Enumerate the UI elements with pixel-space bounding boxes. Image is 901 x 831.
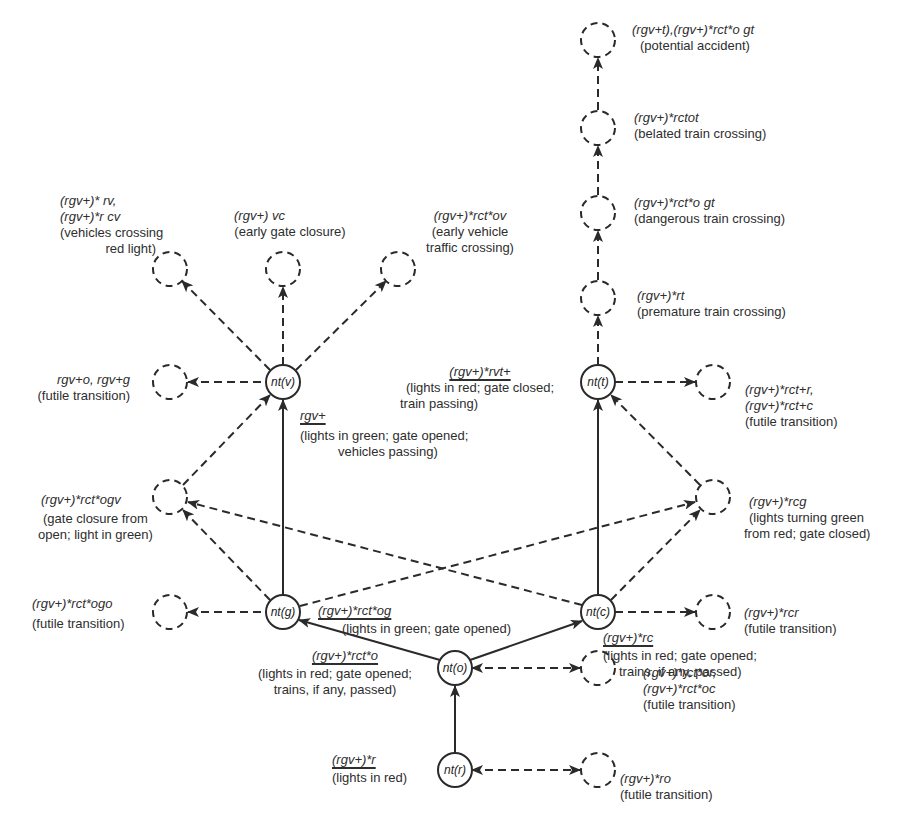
node-nt-r-label: nt(r) [438, 763, 472, 777]
label-early-vehicle: (rgv+)*rct*ov (early vehicle traffic cro… [410, 208, 530, 256]
label-edge-g: (rgv+)*rct*og (lights in green; gate ope… [318, 603, 511, 637]
node-nt-g-label: nt(g) [266, 605, 300, 619]
state-belated [581, 111, 615, 145]
state-transition-diagram: nt(r) nt(o) nt(g) nt(c) nt(v) nt(t) (rgv… [0, 0, 901, 831]
label-oroc: (rgv+)*rct*or, (rgv+)*rct*oc (futile tra… [643, 665, 735, 713]
label-futile-t: (rgv+)*rct+r, (rgv+)*rct+c (futile trans… [745, 382, 837, 430]
label-ogv: (rgv+)*rct*ogv (gate closure from open; … [38, 492, 153, 543]
label-red-light: (rgv+)* rv, (rgv+)*r cv (vehicles crossi… [50, 193, 160, 257]
node-nt-t-label: nt(t) [581, 375, 615, 389]
state-premature [581, 281, 615, 315]
label-belated: (rgv+)*rctot (belated train crossing) [634, 110, 766, 142]
state-futile-v [153, 365, 187, 399]
label-ogo: (rgv+)*rct*ogo (futile transition) [32, 596, 124, 632]
state-ro [581, 753, 615, 787]
state-rcg [696, 480, 730, 514]
label-ro: (rgv+)*ro (futile transition) [620, 771, 712, 803]
label-rcr: (rgv+)*rcr (futile transition) [744, 605, 836, 637]
label-dangerous: (rgv+)*rct*o gt (dangerous train crossin… [634, 195, 785, 227]
node-nt-v-label: nt(v) [266, 375, 300, 389]
label-edge-t: (rgv+)*rvt+ (lights in red; gate closed;… [395, 364, 565, 412]
label-futile-v: rgv+o, rgv+g (futile transition) [20, 372, 130, 404]
state-ogo [153, 595, 187, 629]
node-nt-c-label: nt(c) [581, 605, 615, 619]
state-ogv [153, 480, 187, 514]
state-rcr [696, 595, 730, 629]
state-futile-t [696, 365, 730, 399]
label-early-gate: (rgv+) vc (early gate closure) [220, 208, 360, 240]
label-edge-r: (rgv+)*r (lights in red) [332, 752, 407, 786]
state-early-vehicle [381, 252, 415, 286]
node-nt-o-label: nt(o) [438, 661, 472, 675]
state-early-gate [266, 252, 300, 286]
label-edge-o: (rgv+)*rct*o (lights in red; gate opened… [250, 648, 420, 698]
state-red-light [153, 252, 187, 286]
state-potential-accident [581, 23, 615, 57]
label-edge-v: rgv+ (lights in green; gate opened; vehi… [300, 408, 468, 460]
label-rcg: (rgv+)*rcg (lights turning green from re… [744, 494, 870, 542]
state-dangerous [581, 196, 615, 230]
label-potential-accident: (rgv+t),(rgv+)*rct*o gt (potential accid… [632, 22, 754, 54]
label-premature: (rgv+)*rt (premature train crossing) [637, 288, 786, 320]
